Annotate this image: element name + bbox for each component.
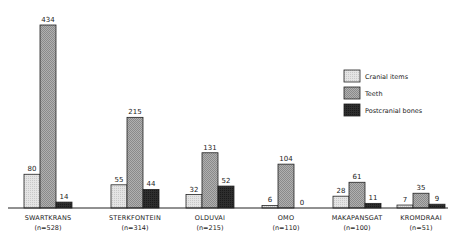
bar-teeth bbox=[278, 164, 294, 208]
legend-label: Cranial items bbox=[365, 73, 409, 81]
category-label: KROMDRAAI bbox=[400, 214, 442, 222]
category-label: OLDUVAI bbox=[195, 214, 225, 222]
bar-post bbox=[365, 203, 381, 208]
bar-value-label: 7 bbox=[403, 196, 407, 204]
bar-value-label: 131 bbox=[203, 144, 216, 152]
legend-label: Teeth bbox=[364, 90, 383, 98]
category-label: OMO bbox=[278, 214, 294, 222]
bar-value-label: 434 bbox=[41, 16, 55, 24]
bar-value-label: 6 bbox=[268, 196, 273, 204]
bar-value-label: 0 bbox=[300, 199, 304, 207]
bar-teeth bbox=[413, 193, 429, 208]
bar-cranial bbox=[111, 185, 127, 208]
category-label: SWARTKRANS bbox=[25, 214, 72, 222]
x-axis-labels: SWARTKRANS(n=528)STERKFONTEIN(n=314)OLDU… bbox=[25, 214, 442, 232]
category-label: MAKAPANSGAT bbox=[332, 214, 383, 222]
bar-teeth bbox=[127, 117, 143, 208]
bar-value-label: 61 bbox=[353, 173, 362, 181]
category-n-label: (n=110) bbox=[272, 224, 299, 232]
bar-cranial bbox=[186, 195, 202, 208]
bar-cranial bbox=[333, 196, 349, 208]
legend-swatch bbox=[344, 87, 360, 99]
bar-post bbox=[429, 204, 445, 208]
bar-value-label: 35 bbox=[417, 184, 426, 192]
bar-teeth bbox=[202, 153, 218, 208]
category-n-label: (n=51) bbox=[410, 224, 433, 232]
bar-value-label: 55 bbox=[115, 176, 124, 184]
category-n-label: (n=100) bbox=[343, 224, 370, 232]
legend: Cranial itemsTeethPostcranial bones bbox=[344, 70, 423, 116]
bar-chart: 804341455215443213152610402861117359 SWA… bbox=[0, 0, 453, 244]
bar-teeth bbox=[349, 182, 365, 208]
bar-value-label: 9 bbox=[435, 195, 439, 203]
bar-value-label: 32 bbox=[190, 186, 199, 194]
category-label: STERKFONTEIN bbox=[109, 214, 161, 222]
legend-swatch bbox=[344, 70, 360, 82]
bar-value-label: 215 bbox=[128, 108, 141, 116]
bar-post bbox=[218, 186, 234, 208]
bar-post bbox=[56, 202, 72, 208]
bar-post bbox=[143, 189, 159, 208]
category-n-label: (n=528) bbox=[34, 224, 61, 232]
bar-value-label: 44 bbox=[147, 180, 156, 188]
bar-value-label: 104 bbox=[279, 155, 293, 163]
category-n-label: (n=215) bbox=[196, 224, 223, 232]
bar-value-label: 11 bbox=[369, 194, 378, 202]
bar-value-label: 28 bbox=[337, 187, 346, 195]
category-n-label: (n=314) bbox=[121, 224, 148, 232]
bar-value-label: 14 bbox=[60, 193, 69, 201]
bar-value-label: 52 bbox=[222, 177, 231, 185]
bar-cranial bbox=[24, 174, 40, 208]
legend-label: Postcranial bones bbox=[365, 107, 423, 115]
bar-value-label: 80 bbox=[28, 165, 37, 173]
bar-teeth bbox=[40, 25, 56, 208]
legend-swatch bbox=[344, 104, 360, 116]
